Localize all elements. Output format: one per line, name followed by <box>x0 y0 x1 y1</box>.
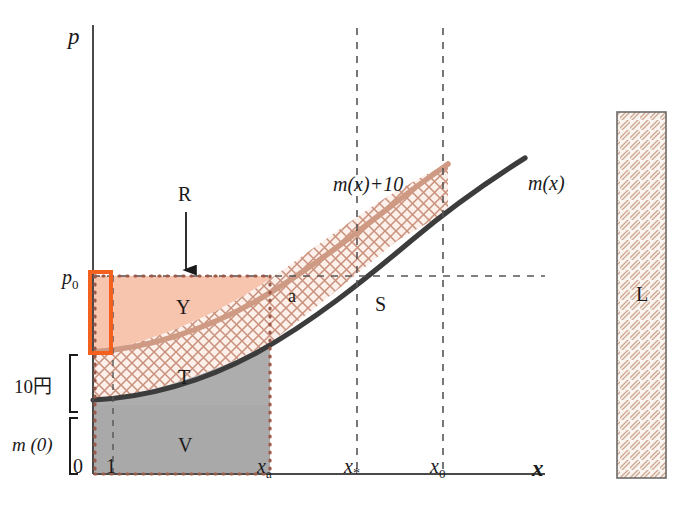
y-tick-p0-base: p <box>62 266 72 288</box>
region-label-a: a <box>288 286 296 307</box>
x-tick-xstar-sub: * <box>353 466 360 481</box>
x-tick-xa-base: x <box>257 455 266 477</box>
x-tick-xstar: x* <box>344 455 360 482</box>
axis-label-p: p <box>68 24 80 50</box>
region-label-V: V <box>178 434 192 457</box>
figure-canvas: p x 0 1 xa x* x0 p0 10円 m (0) m(x)+10 m(… <box>0 0 676 511</box>
curve-label-m-shift: m(x)+10 <box>333 173 403 196</box>
region-label-T: T <box>178 366 190 389</box>
x-tick-one: 1 <box>106 455 116 478</box>
x-tick-xa-sub: a <box>266 466 272 481</box>
cut-off-header-text <box>150 0 550 11</box>
region-label-L: L <box>636 283 648 306</box>
x-tick-xstar-base: x <box>344 455 353 477</box>
y-tick-p0: p0 <box>62 266 79 293</box>
x-tick-x0-base: x <box>430 455 439 477</box>
x-tick-x0-sub: 0 <box>439 466 446 481</box>
curve-label-m-base: m(x) <box>528 172 565 195</box>
region-label-S: S <box>375 293 386 316</box>
bracket-ten-yen <box>70 355 78 412</box>
y-tick-p0-sub: 0 <box>72 277 79 292</box>
bracket-label-ten-yen: 10円 <box>14 371 52 398</box>
bracket-label-m-zero: m (0) <box>12 434 53 456</box>
diagram-svg <box>0 0 676 511</box>
annotation-label-R: R <box>178 183 191 206</box>
axis-origin-label: 0 <box>73 455 83 478</box>
region-label-Y: Y <box>176 296 190 319</box>
x-tick-x0: x0 <box>430 455 445 482</box>
x-tick-xa: xa <box>257 455 272 482</box>
axis-label-x: x <box>532 456 544 482</box>
